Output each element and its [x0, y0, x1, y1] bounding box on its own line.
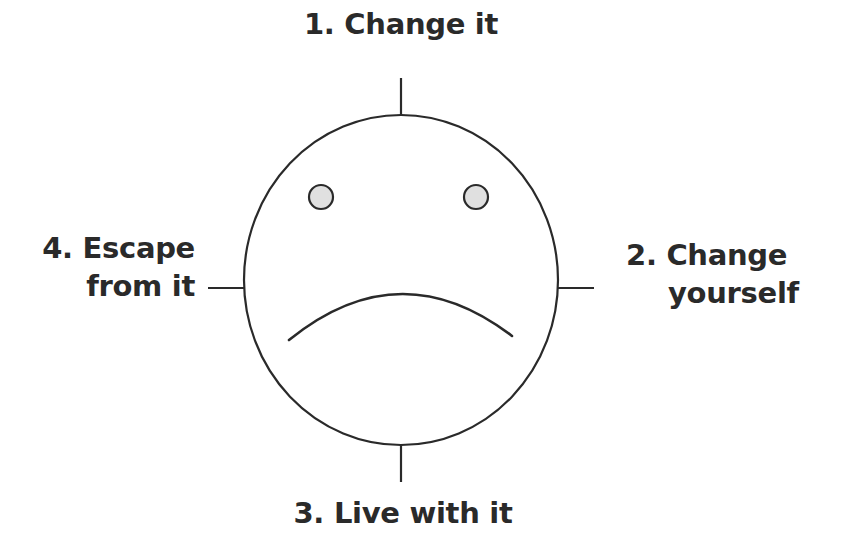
- option-change-it-line-1: 1. Change it: [0, 5, 802, 43]
- option-change-yourself: 2. Change yourself: [626, 236, 826, 312]
- diagram-canvas: 1. Change it 2. Change yourself 3. Live …: [0, 0, 841, 552]
- option-escape-from-it-line-1: 4. Escape: [40, 229, 195, 267]
- right-eye: [464, 185, 488, 209]
- option-escape-from-it: 4. Escape from it: [40, 229, 195, 305]
- face-outline: [244, 115, 558, 445]
- option-escape-from-it-line-2: from it: [40, 267, 195, 305]
- option-change-yourself-line-2: yourself: [626, 274, 826, 312]
- left-eye: [309, 185, 333, 209]
- option-live-with-it-line-1: 3. Live with it: [0, 494, 806, 532]
- option-change-yourself-line-1: 2. Change: [626, 236, 826, 274]
- option-change-it: 1. Change it: [0, 5, 802, 43]
- option-live-with-it: 3. Live with it: [0, 494, 806, 532]
